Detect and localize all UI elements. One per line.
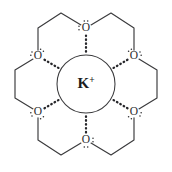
oxygen-lower-left-lone-pair-2-dot-1 (43, 116, 45, 118)
oxygen-bottom-lone-pair-1-dot-2 (84, 146, 86, 148)
oxygen-lower-left-label: O (34, 105, 42, 117)
oxygen-upper-left-lone-pair-1-dot-2 (31, 51, 33, 53)
oxygen-lower-right-lone-pair-2-dot-2 (128, 116, 130, 118)
oxygen-bottom-lone-pair-2-dot-1 (92, 138, 94, 140)
coordination-lower-right (112, 99, 127, 108)
oxygen-top-lone-pair-1-dot-2 (87, 20, 89, 22)
oxygen-upper-right-lone-pair-2-dot-2 (131, 49, 133, 51)
oxygen-bottom: O (80, 133, 93, 148)
coordination-upper-left (44, 60, 59, 69)
oxygen-bottom-label: O (82, 133, 90, 145)
oxygen-lower-right-lone-pair-1-dot-1 (140, 112, 142, 114)
oxygen-upper-left-label: O (34, 49, 42, 61)
oxygen-lower-right-label: O (130, 105, 138, 117)
bridge-bottom-left (38, 112, 86, 155)
oxygen-lower-right-lone-pair-2-dot-1 (131, 118, 133, 120)
oxygen-top-lone-pair-2-dot-1 (78, 29, 80, 31)
bridge-left (15, 56, 38, 112)
bridge-top-right (86, 13, 134, 56)
potassium-charge: + (89, 75, 94, 85)
chemical-structure-diagram: OOOOOO K+ (0, 0, 172, 172)
potassium-ion-label: K+ (77, 75, 94, 92)
oxygen-upper-right-lone-pair-1-dot-2 (140, 54, 142, 56)
oxygen-upper-left-lone-pair-1-dot-1 (30, 54, 32, 56)
oxygen-upper-left-lone-pair-2-dot-2 (43, 50, 45, 52)
bridge-right (134, 56, 157, 112)
oxygen-lower-left-lone-pair-1-dot-1 (31, 115, 33, 117)
oxygen-top: O (78, 20, 91, 33)
oxygen-top-lone-pair-1-dot-1 (84, 20, 86, 22)
coordination-upper-right (112, 60, 127, 69)
oxygen-top-label: O (82, 21, 90, 33)
oxygen-bottom-lone-pair-1-dot-1 (87, 146, 89, 148)
oxygen-upper-right-label: O (130, 49, 138, 61)
oxygen-lower-right-lone-pair-1-dot-2 (139, 115, 141, 117)
crown-ether-figure: OOOOOO K+ (0, 0, 172, 172)
oxygen-top-lone-pair-2-dot-2 (78, 26, 80, 28)
oxygen-lower-right: O (128, 105, 142, 119)
oxygen-upper-right-lone-pair-1-dot-1 (139, 51, 141, 53)
oxygen-lower-left-lone-pair-2-dot-2 (40, 118, 42, 120)
bridge-bottom-right (86, 112, 134, 155)
oxygen-lower-left-lone-pair-1-dot-2 (30, 112, 32, 114)
oxygen-lower-left: O (30, 105, 44, 119)
oxygen-upper-left-lone-pair-2-dot-1 (40, 49, 42, 51)
oxygen-bottom-lone-pair-2-dot-2 (92, 141, 94, 143)
bridge-top-left (38, 13, 86, 56)
potassium-symbol: K (77, 75, 89, 91)
coordination-lower-left (44, 99, 59, 108)
oxygen-upper-right-lone-pair-2-dot-1 (128, 50, 130, 52)
